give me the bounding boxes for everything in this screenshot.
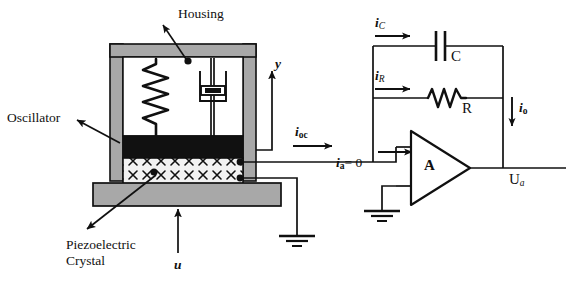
current-ioc-label: ioc [295,125,308,141]
ua-symbol: U [509,171,520,187]
housing-label: Housing [178,7,224,21]
amplifier-label: A [424,158,435,174]
piezo-label-line2: Crystal [66,253,136,269]
current-ic-label: iC [375,16,385,32]
y-axis-arrow [256,71,272,150]
current-ia-label: ia= 0 [336,156,362,172]
piezo-label-line1: Piezoelectric [66,237,136,253]
ground-amplifier-symbol [364,211,400,221]
operational-amplifier [396,131,566,205]
figure-canvas: Housing Oscillator Piezoelectric Crystal… [0,0,578,289]
ioc-subscript: oc [299,130,308,140]
ua-subscript: a [520,178,525,188]
ia-equals-zero: = 0 [345,155,363,170]
input-u-label: u [174,258,182,272]
output-voltage-label: Ua [509,172,525,189]
oscillator-mass [123,136,243,158]
current-ir-label: iR [375,69,385,85]
wire-noninverting-ground [382,186,396,211]
ground-sensor-symbol [279,236,315,246]
feedback-resistor-branch [373,89,503,107]
y-axis-label: y [275,57,281,71]
io-subscript: o [523,106,528,116]
capacitor-label: C [451,49,461,65]
piezoelectric-crystal [123,158,243,184]
wire-inverting-node [373,46,396,162]
oscillator-label: Oscillator [7,111,60,125]
ir-subscript: R [379,74,385,84]
resistor-label: R [462,101,472,117]
current-io-label: io [519,101,528,117]
ic-subscript: C [379,21,385,31]
housing-cavity [123,57,243,136]
piezoelectric-crystal-label: Piezoelectric Crystal [66,237,136,270]
